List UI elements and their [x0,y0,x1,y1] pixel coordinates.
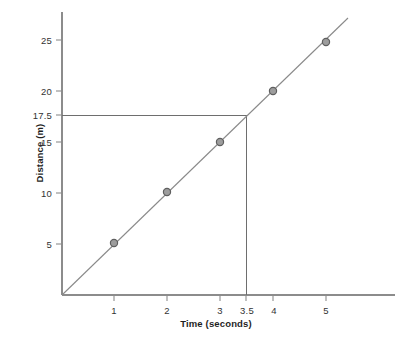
data-point-4 [269,87,276,94]
y-tick-label-25: 25 [18,35,52,46]
y-tick-label-10: 10 [18,188,52,199]
data-point-5 [322,38,329,45]
y-tick-label-20: 20 [18,86,52,97]
x-tick-label-3: 3 [217,305,222,316]
data-point-2 [163,188,170,195]
y-axis-title: Distance (m) [34,124,45,183]
x-axis-ticks [114,295,326,301]
data-point-3 [216,138,223,145]
y-tick-label-17-5: 17.5 [14,110,52,121]
x-tick-label-5: 5 [323,305,328,316]
data-point-1 [110,239,117,246]
trend-line [62,18,348,295]
distance-time-chart: 25 20 17.5 15 10 5 1 2 3 3.5 4 5 Time (s… [0,0,408,342]
y-tick-label-5: 5 [18,239,52,250]
y-axis-ticks [56,40,62,244]
x-tick-label-1: 1 [111,305,116,316]
x-tick-label-2: 2 [164,305,169,316]
x-tick-label-3-5: 3.5 [240,305,254,316]
chart-canvas [0,0,408,342]
data-point-markers [110,38,329,246]
x-tick-label-4: 4 [271,305,276,316]
x-axis-title: Time (seconds) [180,318,252,329]
